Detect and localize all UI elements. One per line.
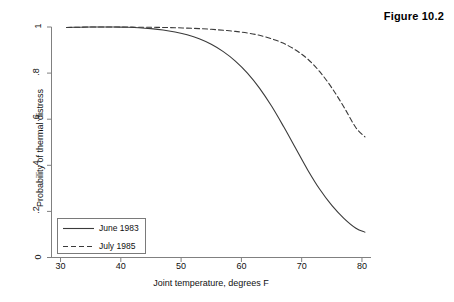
y-tick-label: .2 [10, 205, 40, 215]
x-tick-label: 80 [347, 261, 377, 271]
x-tick-label: 30 [46, 261, 76, 271]
x-tick-label: 40 [106, 261, 136, 271]
x-axis-title: Joint temperature, degrees F [51, 278, 371, 288]
chart-legend: June 1983 July 1985 [57, 218, 146, 254]
figure-container: Figure 10.2 Joint temperature, degrees F… [0, 0, 454, 302]
y-tick-label: .8 [10, 67, 40, 77]
legend-label-1: July 1985 [95, 241, 135, 251]
y-tick-label: 0 [10, 252, 40, 262]
y-tick-label: .4 [10, 159, 40, 169]
x-tick-label: 50 [166, 261, 196, 271]
y-tick-label: .6 [10, 113, 40, 123]
legend-entry-july-1985: July 1985 [62, 237, 143, 255]
x-tick-label: 60 [226, 261, 256, 271]
legend-entry-june-1983: June 1983 [62, 219, 143, 237]
y-tick-label: 1 [10, 21, 40, 31]
legend-line-dashed-icon [62, 242, 95, 251]
chart-plot-area [0, 0, 454, 302]
legend-label-0: June 1983 [95, 223, 139, 233]
series-line-1 [67, 27, 365, 137]
data-series-group [67, 27, 365, 232]
series-line-0 [67, 27, 365, 232]
y-axis-ticks [47, 27, 52, 258]
x-tick-label: 70 [287, 261, 317, 271]
legend-line-solid-icon [62, 224, 95, 233]
